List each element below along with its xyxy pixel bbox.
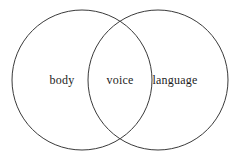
venn-label-intersection: voice: [107, 74, 134, 86]
venn-label-left: body: [50, 74, 75, 86]
venn-label-right: language: [153, 74, 198, 86]
venn-diagram: body voice language: [0, 0, 241, 160]
